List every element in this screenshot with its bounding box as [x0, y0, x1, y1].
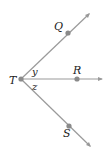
geometry-diagram: T Q R S y z — [0, 0, 111, 152]
label-s: S — [63, 127, 71, 140]
angle-label-y: y — [31, 66, 38, 77]
arrow-tr-icon — [98, 77, 103, 81]
point-q — [65, 30, 70, 35]
point-r — [74, 76, 79, 81]
label-t: T — [9, 74, 18, 87]
label-r: R — [72, 64, 81, 77]
label-q: Q — [54, 20, 63, 33]
angle-label-z: z — [31, 81, 38, 92]
point-t — [18, 76, 23, 81]
